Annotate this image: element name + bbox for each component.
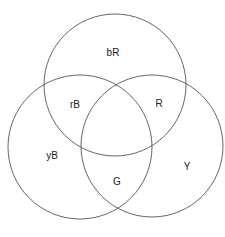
region-right-only-label: Y: [184, 161, 191, 172]
region-left-right-label: G: [113, 176, 121, 187]
region-top-right-label: R: [155, 98, 162, 109]
region-top-left-label: rB: [70, 99, 80, 110]
venn-diagram: bR rB R yB G Y: [0, 0, 225, 237]
region-top-only-label: bR: [107, 47, 120, 58]
region-left-only-label: yB: [46, 150, 58, 161]
